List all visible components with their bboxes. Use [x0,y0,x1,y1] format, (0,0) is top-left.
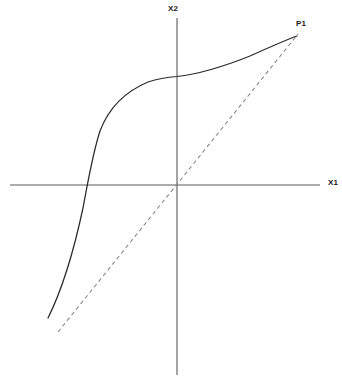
plot-area [0,0,342,384]
x-axis-label: X1 [328,179,338,187]
point-p1-label: P1 [296,20,306,28]
sigmoid-curve [48,36,297,318]
reference-diagonal-dashed-line [58,34,298,332]
y-axis-label: X2 [168,5,178,13]
figure-canvas: X2 X1 P1 [0,0,342,384]
